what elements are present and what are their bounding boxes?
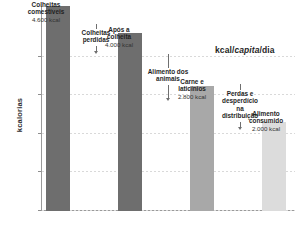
annotation-line1: Colheitas bbox=[82, 29, 111, 36]
chart-title-pre: kcal/ bbox=[215, 45, 234, 55]
annotation-perdas-e-desperdicio: Perdas e desperdício na distribuição bbox=[210, 90, 270, 120]
bar-label-value: 4.600 kcal bbox=[17, 16, 75, 23]
ytick-mark-0 bbox=[38, 210, 41, 211]
ytick-mark-3000 bbox=[38, 94, 41, 95]
annotation-line2: animais bbox=[156, 75, 180, 82]
y-axis-title: kcalorias bbox=[15, 97, 24, 131]
bar-label-line2: laticínios bbox=[178, 85, 206, 92]
ytick-mark-1000 bbox=[38, 171, 41, 172]
gridline-0 bbox=[42, 210, 295, 211]
bar-chart: kcalorias 0 1000 2000 3000 4000 Colheita… bbox=[0, 0, 297, 229]
annotation-colheitas-perdidas: Colheitas perdidas bbox=[68, 29, 124, 44]
bar-apos-a-colheita bbox=[118, 33, 142, 211]
bar-alimento-consumido bbox=[262, 122, 286, 211]
leader-line-alimento-dos-animais bbox=[168, 85, 169, 99]
gridline-1000 bbox=[42, 171, 295, 172]
arrow-down-icon-perdas-e-desperdicio bbox=[238, 127, 242, 130]
y-axis-line bbox=[41, 6, 42, 211]
annotation-line2: desperdício bbox=[222, 97, 258, 104]
gridline-2000 bbox=[42, 133, 295, 134]
arrow-down-icon-colheitas-perdidas bbox=[94, 51, 98, 54]
annotation-alimento-dos-animais: Alimento dos animais bbox=[135, 68, 201, 83]
annotation-line4: distribuição bbox=[222, 112, 258, 119]
ytick-mark-4000 bbox=[38, 56, 41, 57]
bar-label-colheitas-comestiveis: Colheitas comestíveis 4.600 kcal bbox=[17, 1, 75, 23]
annotation-line1: Perdas e bbox=[227, 90, 254, 97]
leader-stub-alimento-dos-animais bbox=[168, 54, 169, 68]
bar-label-line2: comestíveis bbox=[28, 8, 65, 15]
chart-title: kcal/capita/dia bbox=[215, 45, 275, 55]
bar-label-value: 2.000 kcal bbox=[237, 125, 295, 132]
annotation-line2: perdidas bbox=[83, 36, 110, 43]
annotation-line1: Alimento dos bbox=[148, 68, 188, 75]
chart-title-italic: capita bbox=[234, 45, 259, 55]
bar-label-line1: Colheitas bbox=[32, 1, 61, 8]
chart-title-post: /dia bbox=[260, 45, 275, 55]
annotation-line3: na bbox=[236, 105, 243, 112]
bar-colheitas-comestiveis bbox=[46, 6, 70, 211]
arrow-down-icon-alimento-dos-animais bbox=[166, 98, 170, 101]
ytick-mark-2000 bbox=[38, 133, 41, 134]
